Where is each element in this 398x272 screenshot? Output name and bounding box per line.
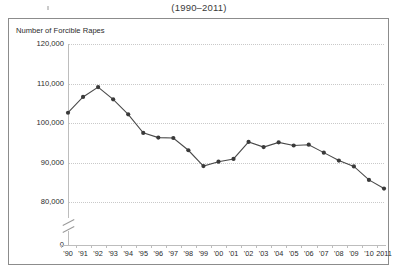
data-point-marker [186,148,190,152]
data-point-marker [201,164,205,168]
chart-page: (1990–2011) Number of Forcible Rapes 120… [0,0,398,272]
data-point-marker [81,95,85,99]
data-point-marker [171,136,175,140]
data-point-marker [382,186,386,190]
data-point-marker [96,85,100,89]
data-point-marker [231,157,235,161]
data-point-marker [262,145,266,149]
data-point-marker [246,140,250,144]
data-point-marker [111,97,115,101]
data-point-marker [352,164,356,168]
data-point-marker [277,140,281,144]
data-point-marker [126,112,130,116]
plot-area: 120,000110,000100,00090,00080,0000 '90'9… [0,0,398,272]
data-point-marker [307,143,311,147]
data-point-marker [337,158,341,162]
data-point-marker [367,178,371,182]
data-point-marker [292,143,296,147]
series-polyline [68,87,384,189]
data-point-marker [216,160,220,164]
data-point-marker [66,111,70,115]
data-series-line [0,0,398,272]
data-point-marker [322,151,326,155]
data-point-marker [141,131,145,135]
data-point-marker [156,136,160,140]
